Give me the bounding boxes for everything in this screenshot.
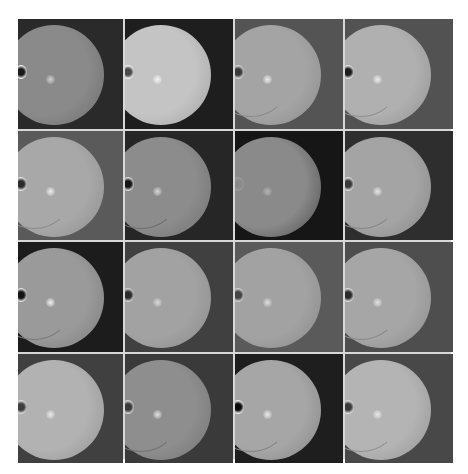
macula — [373, 75, 382, 84]
macula — [46, 410, 55, 419]
fundus-image-7 — [235, 131, 343, 240]
retina-disc — [18, 360, 104, 460]
fundus-image-16 — [345, 354, 453, 463]
macula — [153, 75, 162, 84]
retina-disc — [125, 248, 211, 348]
macula — [263, 410, 272, 419]
macula — [46, 298, 55, 307]
macula — [263, 75, 272, 84]
fundus-image-5 — [18, 131, 123, 240]
macula — [153, 410, 162, 419]
fundus-image-grid — [18, 19, 451, 459]
macula — [263, 187, 272, 196]
fundus-image-12 — [345, 242, 453, 352]
fundus-image-14 — [125, 354, 233, 463]
fundus-image-13 — [18, 354, 123, 463]
fundus-image-1 — [18, 19, 123, 129]
fundus-image-4 — [345, 19, 453, 129]
fundus-image-3 — [235, 19, 343, 129]
macula — [373, 187, 382, 196]
fundus-image-9 — [18, 242, 123, 352]
macula — [153, 298, 162, 307]
fundus-image-10 — [125, 242, 233, 352]
macula — [46, 187, 55, 196]
fundus-image-15 — [235, 354, 343, 463]
fundus-image-2 — [125, 19, 233, 129]
retina-disc — [18, 25, 104, 125]
macula — [373, 298, 382, 307]
fundus-image-11 — [235, 242, 343, 352]
fundus-image-6 — [125, 131, 233, 240]
retina-disc — [125, 25, 211, 125]
macula — [153, 187, 162, 196]
retina-disc — [235, 248, 321, 348]
macula — [263, 298, 272, 307]
retina-disc — [235, 137, 321, 237]
macula — [373, 410, 382, 419]
fundus-image-8 — [345, 131, 453, 240]
macula — [46, 75, 55, 84]
